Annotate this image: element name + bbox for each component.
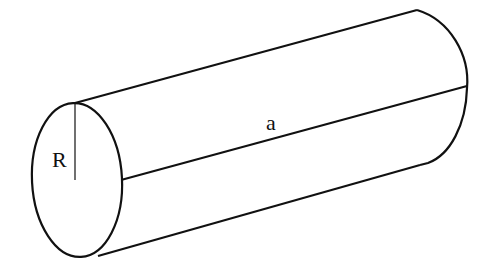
left-end-ellipse [28, 101, 126, 259]
top-edge [75, 10, 417, 103]
cylinder-diagram: R a [0, 0, 492, 277]
radius-label: R [52, 147, 67, 172]
bottom-edge [98, 165, 420, 256]
length-label: a [266, 110, 276, 135]
